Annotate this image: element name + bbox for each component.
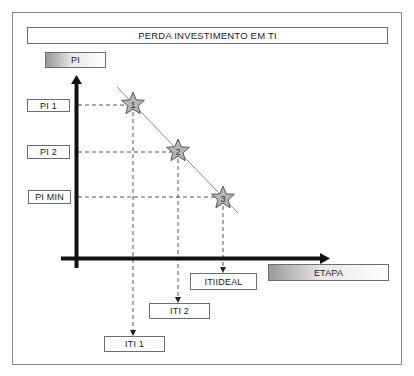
- svg-text:1: 1: [130, 100, 135, 110]
- svg-text:2: 2: [175, 147, 180, 157]
- diagram-graphics: 1 2 3: [0, 0, 414, 376]
- x-axis: [61, 253, 330, 264]
- y-axis: [71, 75, 82, 268]
- svg-text:3: 3: [220, 194, 225, 204]
- dashed-arrowheads: [130, 267, 226, 336]
- x-axis-arrow-icon: [320, 253, 330, 264]
- y-axis-arrow-icon: [71, 75, 82, 84]
- dashed-guides: [78, 105, 223, 331]
